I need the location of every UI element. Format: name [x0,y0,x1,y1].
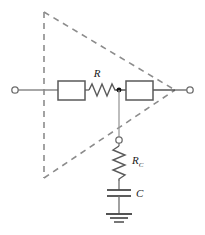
ground-symbol [106,214,132,222]
resistor-c-symbol[interactable] [113,146,125,181]
gain-block-left[interactable] [58,81,85,100]
resistor-series-label: R [93,67,101,79]
triangle-bottom-edge [44,90,175,178]
circuit-schematic: R RC C [0,0,205,235]
resistor-series-symbol[interactable] [89,84,117,96]
resistor-c-label-group: RC [131,154,144,169]
diagram-canvas: R RC C [0,0,205,235]
triangle-top-edge [44,12,175,90]
node-tap-terminal[interactable] [116,137,122,143]
capacitor-label: C [136,187,144,199]
input-terminal[interactable] [12,87,18,93]
output-terminal[interactable] [187,87,193,93]
resistor-c-subscript-label: C [139,161,144,169]
gain-block-right[interactable] [126,81,153,100]
